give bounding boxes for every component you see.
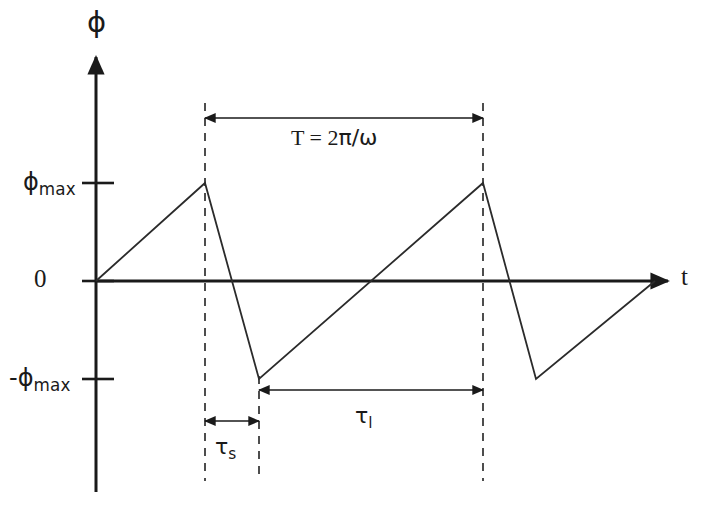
tau-long-symbol: τ (355, 403, 368, 428)
y-tick-label-zero: 0 (34, 266, 47, 291)
dimension-arrows (205, 118, 483, 421)
tau-short-symbol: τ (215, 434, 228, 459)
tau-long-subscript: l (368, 414, 372, 432)
sawtooth-waveform-figure: ϕ t ϕmax 0 -ϕmax T = 2π/ω τl τs (0, 0, 718, 511)
y-axis-label: ϕ (87, 8, 106, 37)
tau-short-annotation: τs (215, 436, 236, 462)
figure-canvas (0, 0, 718, 511)
phi-max-symbol: ϕ (23, 168, 39, 196)
phi-max-subscript: max (39, 179, 76, 199)
neg-phi-max-subscript: max (34, 375, 71, 395)
tau-short-subscript: s (228, 445, 236, 463)
y-tick-label-phi-max: ϕmax (23, 170, 76, 198)
axes-group (96, 57, 668, 492)
y-tick-label-neg-phi-max: -ϕmax (9, 366, 71, 394)
period-annotation: T = 2π/ω (291, 127, 378, 149)
x-axis-label: t (681, 264, 688, 289)
period-text-prefix: T = 2 (291, 125, 338, 150)
tau-long-annotation: τl (355, 405, 373, 431)
period-text-symbol: π/ω (338, 125, 377, 150)
dashed-reference-lines (205, 103, 483, 481)
neg-phi-max-symbol: -ϕ (9, 364, 34, 392)
y-axis-ticks (82, 183, 114, 379)
